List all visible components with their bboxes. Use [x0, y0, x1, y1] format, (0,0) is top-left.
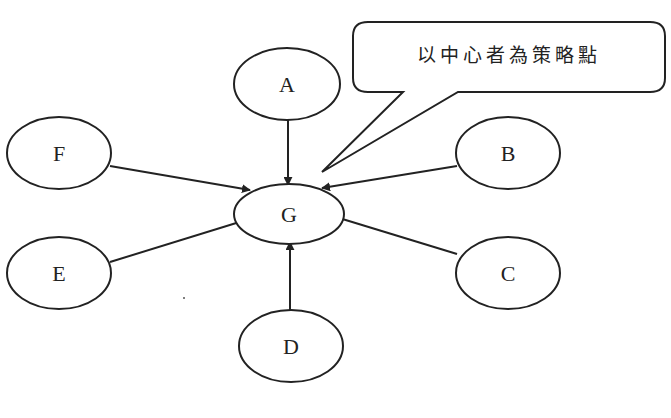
node-g-center: G: [234, 184, 344, 244]
node-b-label: B: [501, 141, 516, 166]
node-e: E: [7, 237, 111, 309]
node-c: C: [456, 237, 560, 309]
node-b: B: [456, 117, 560, 189]
node-a-label: A: [279, 72, 295, 97]
hub-spoke-diagram: 以中心者為策略點 A B C D E F G: [0, 0, 671, 418]
node-a: A: [234, 48, 340, 120]
node-f: F: [7, 117, 111, 189]
node-c-label: C: [501, 261, 516, 286]
node-e-label: E: [52, 261, 65, 286]
edge-c-g: [326, 214, 457, 254]
scan-speck: [183, 297, 185, 299]
node-d: D: [239, 310, 343, 382]
callout-text: 以中心者為策略點: [417, 44, 601, 66]
node-d-label: D: [283, 334, 299, 359]
node-f-label: F: [53, 141, 65, 166]
edge-b-g: [322, 166, 457, 188]
edge-f-g: [110, 166, 250, 190]
edge-e-g: [110, 220, 246, 262]
node-g-label: G: [281, 202, 297, 227]
